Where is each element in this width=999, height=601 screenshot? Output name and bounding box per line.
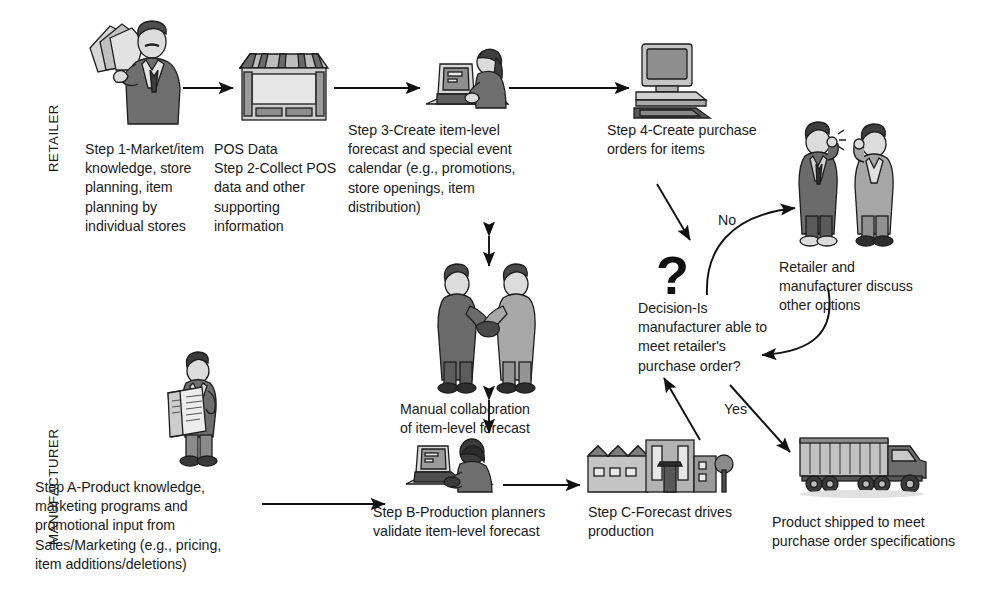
person-at-laptop-icon: [424, 42, 510, 120]
edge-label-yes: Yes: [724, 400, 747, 419]
factory-icon: [586, 436, 732, 498]
caption-stepB: Step B-Production planners validate item…: [373, 503, 585, 541]
retail-store-icon: [238, 48, 330, 124]
handshake-two-people-icon: [424, 262, 550, 394]
caption-stepA: Step A-Product knowledge, marketing prog…: [35, 478, 257, 574]
caption-step3: Step 3-Create item-level forecast and sp…: [348, 121, 544, 217]
caption-step2: POS Data Step 2-Collect POS data and oth…: [214, 140, 340, 236]
edge-label-no: No: [718, 211, 736, 230]
caption-shipping: Product shipped to meet purchase order s…: [772, 513, 972, 551]
caption-stepC: Step C-Forecast drives production: [588, 503, 748, 541]
diagram-canvas: RETAILER MANUFACTURER: [0, 0, 999, 601]
caption-collaboration: Manual collaboration of item-level forec…: [400, 400, 580, 438]
businessman-with-documents-icon: [86, 20, 186, 124]
delivery-truck-icon: [796, 434, 932, 502]
desktop-computer-icon: [634, 40, 714, 122]
question-mark-icon: ?: [656, 248, 689, 302]
caption-discuss: Retailer and manufacturer discuss other …: [779, 258, 947, 316]
caption-step1: Step 1-Market/item knowledge, store plan…: [85, 140, 215, 236]
two-people-on-phones-icon: [786, 122, 906, 258]
production-planner-at-laptop-icon: [404, 438, 504, 500]
caption-step4: Step 4-Create purchase orders for items: [607, 121, 773, 159]
man-reading-newspaper-icon: [150, 355, 236, 467]
caption-decision: Decision-Is manufacturer able to meet re…: [638, 299, 788, 376]
